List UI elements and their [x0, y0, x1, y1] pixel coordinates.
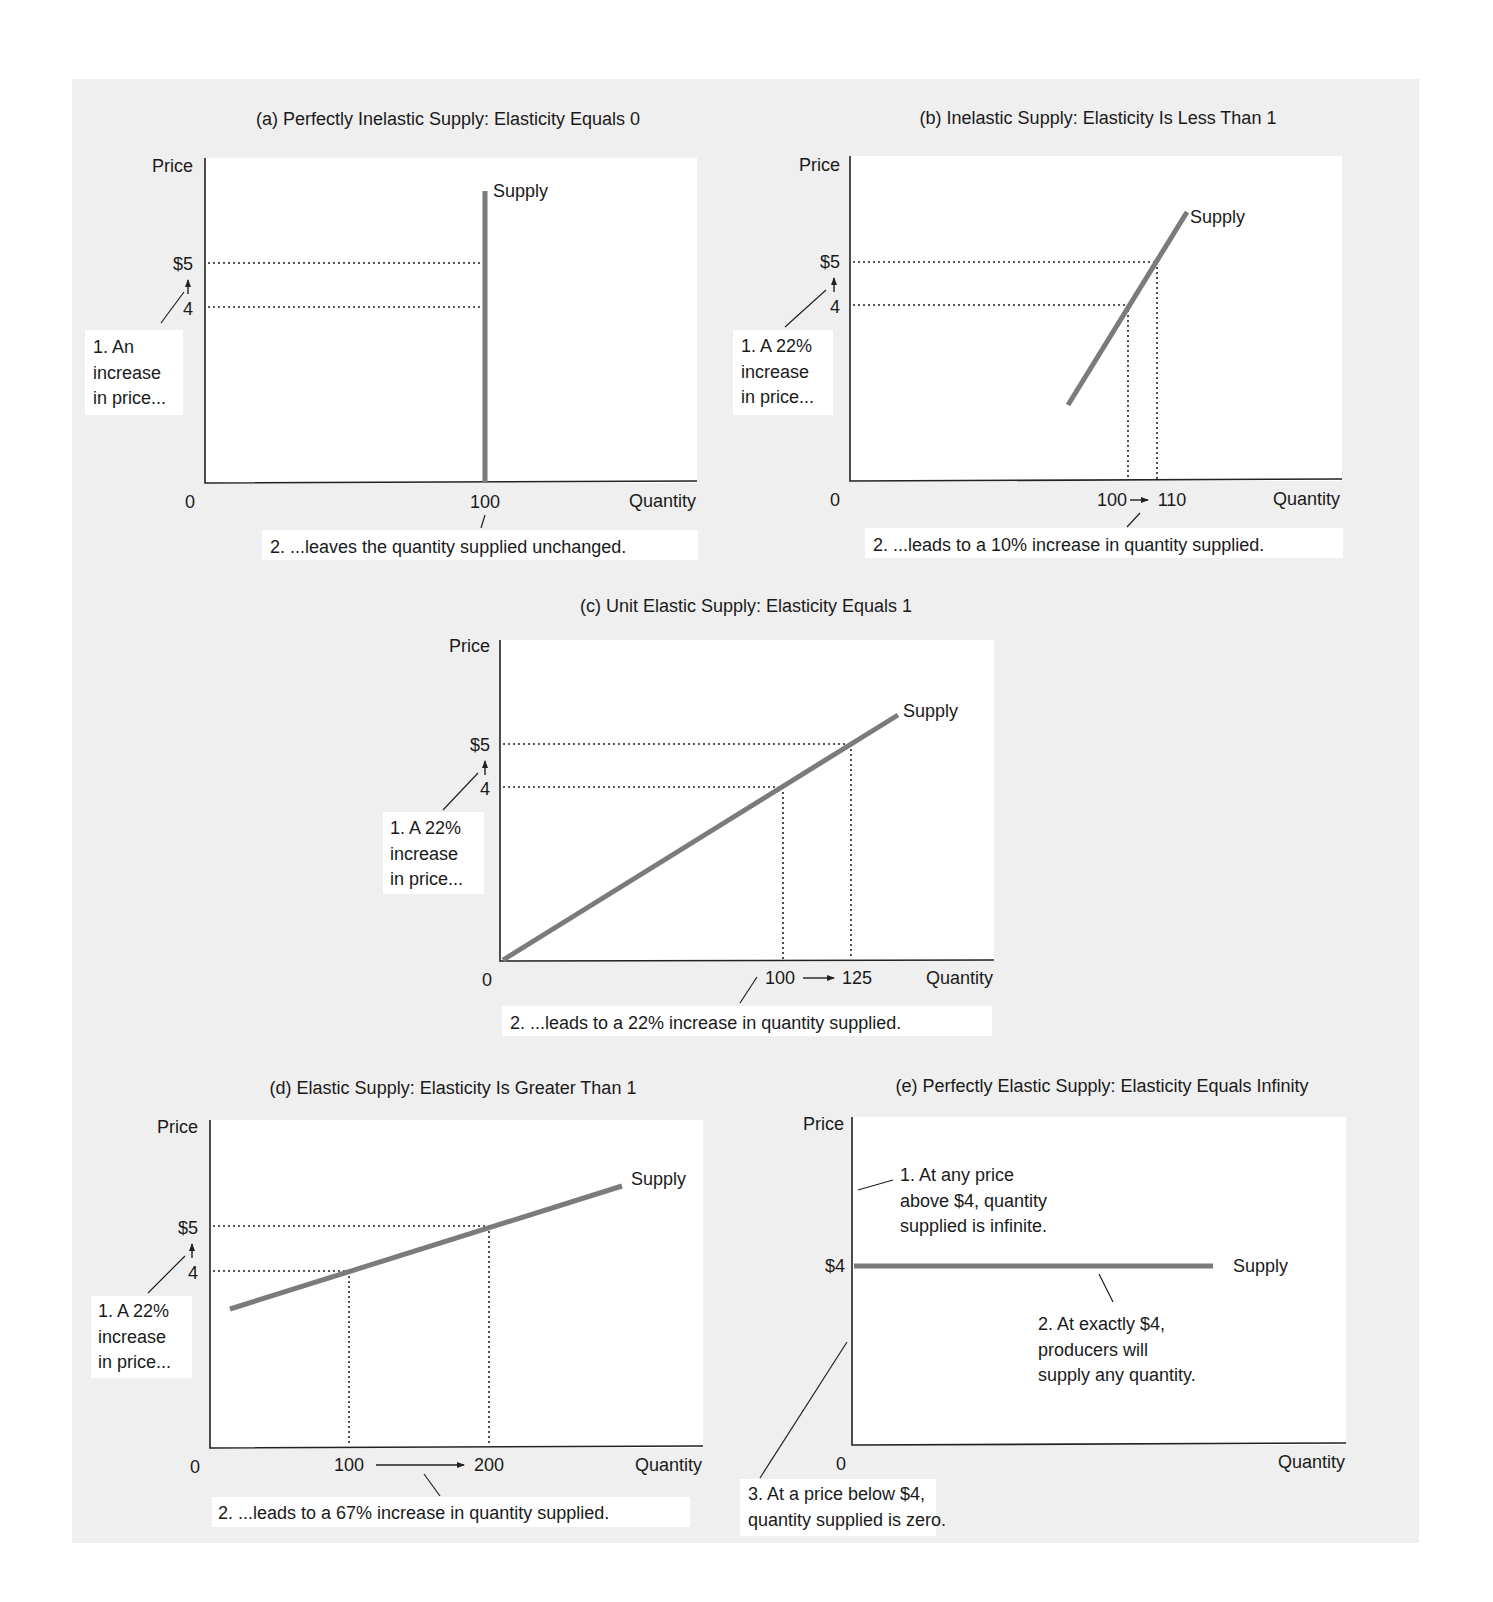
panel-c-xtick-125: 125 — [842, 968, 872, 988]
panel-c-price-note: 1. A 22% increase in price... — [390, 818, 466, 889]
panel-b-ytick-4: 4 — [830, 297, 840, 317]
panel-c-ylabel: Price — [449, 636, 490, 656]
panel-d-origin: 0 — [190, 1457, 200, 1477]
panel-b-xtick-110: 110 — [1158, 490, 1187, 510]
panel-b-title: (b) Inelastic Supply: Elasticity Is Less… — [920, 108, 1277, 128]
panel-d-quantity-note: 2. ...leads to a 67% increase in quantit… — [218, 1503, 609, 1523]
panel-b-supply-label: Supply — [1190, 207, 1245, 227]
panel-c-supply-label: Supply — [903, 701, 958, 721]
panel-b-ylabel: Price — [799, 155, 840, 175]
panel-c-xlabel: Quantity — [926, 968, 993, 988]
panel-d-ytick-5: $5 — [178, 1218, 198, 1238]
panel-b: (b) Inelastic Supply: Elasticity Is Less… — [733, 108, 1343, 558]
panel-e-xlabel: Quantity — [1278, 1452, 1345, 1472]
panel-a-ytick-4: 4 — [183, 299, 193, 319]
panel-a-ylabel: Price — [152, 156, 193, 176]
panel-a-ytick-5: $5 — [173, 254, 193, 274]
panel-b-xlabel: Quantity — [1273, 489, 1340, 509]
panel-d-ytick-4: 4 — [188, 1263, 198, 1283]
panel-e-ytick-4: $4 — [825, 1256, 845, 1276]
panel-d-ylabel: Price — [157, 1117, 198, 1137]
panel-d-quantity-leader — [424, 1474, 440, 1496]
panel-c-ytick-5: $5 — [470, 735, 490, 755]
panel-e: (e) Perfectly Elastic Supply: Elasticity… — [740, 1076, 1346, 1536]
panel-b-price-leader — [785, 290, 826, 327]
panel-b-plot-area — [850, 156, 1342, 481]
panel-a-title: (a) Perfectly Inelastic Supply: Elastici… — [256, 109, 640, 129]
panel-b-quantity-note: 2. ...leads to a 10% increase in quantit… — [873, 535, 1264, 555]
panel-c-price-leader — [443, 773, 478, 810]
panel-e-supply-label: Supply — [1233, 1256, 1288, 1276]
panel-a-quantity-leader — [481, 515, 485, 528]
panel-b-xtick-100: 100 — [1097, 490, 1127, 510]
panel-d-xtick-100: 100 — [334, 1455, 364, 1475]
panel-a: (a) Perfectly Inelastic Supply: Elastici… — [85, 109, 698, 560]
panel-a-quantity-note: 2. ...leaves the quantity supplied uncha… — [270, 537, 626, 557]
panel-a-origin: 0 — [185, 492, 195, 512]
panel-c: (c) Unit Elastic Supply: Elasticity Equa… — [383, 596, 994, 1036]
panel-d-plot-area — [210, 1120, 703, 1448]
panel-d-price-leader — [148, 1256, 185, 1293]
panel-c-title: (c) Unit Elastic Supply: Elasticity Equa… — [580, 596, 912, 616]
panel-a-price-leader — [161, 292, 184, 323]
panel-c-ytick-4: 4 — [480, 779, 490, 799]
panel-b-ytick-5: $5 — [820, 252, 840, 272]
panel-d-supply-label: Supply — [631, 1169, 686, 1189]
panel-c-quantity-leader — [740, 977, 757, 1003]
panel-b-price-note: 1. A 22% increase in price... — [741, 336, 817, 407]
panel-a-xtick-100: 100 — [470, 492, 500, 512]
panel-c-quantity-note: 2. ...leads to a 22% increase in quantit… — [510, 1013, 901, 1033]
panel-b-origin: 0 — [830, 490, 840, 510]
panel-d-xtick-200: 200 — [474, 1455, 504, 1475]
panel-d-title: (d) Elastic Supply: Elasticity Is Greate… — [270, 1078, 637, 1098]
panel-e-title: (e) Perfectly Elastic Supply: Elasticity… — [895, 1076, 1308, 1096]
panel-e-note3-leader — [760, 1342, 847, 1478]
panel-c-plot-area — [500, 640, 994, 960]
panel-e-origin: 0 — [836, 1454, 846, 1474]
panel-a-supply-label: Supply — [493, 181, 548, 201]
panel-d: (d) Elastic Supply: Elasticity Is Greate… — [91, 1078, 703, 1527]
panel-d-price-note: 1. A 22% increase in price... — [98, 1301, 174, 1372]
panel-c-xtick-100: 100 — [765, 968, 795, 988]
panel-e-ylabel: Price — [803, 1114, 844, 1134]
panel-a-xlabel: Quantity — [629, 491, 696, 511]
elasticity-figure: (a) Perfectly Inelastic Supply: Elastici… — [0, 0, 1493, 1602]
panel-c-origin: 0 — [482, 970, 492, 990]
panel-b-quantity-leader — [1127, 513, 1140, 527]
panel-d-xlabel: Quantity — [635, 1455, 702, 1475]
panel-a-plot-area — [205, 158, 697, 483]
